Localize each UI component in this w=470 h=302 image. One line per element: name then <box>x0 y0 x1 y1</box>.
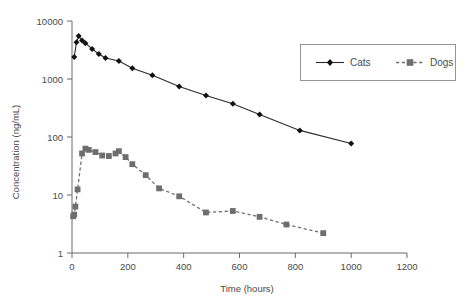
data-point-cats <box>257 111 263 117</box>
x-axis-ticks: 020040060080010001200 <box>69 253 417 272</box>
data-point-dogs <box>123 154 129 160</box>
x-tick-label: 1200 <box>396 261 417 272</box>
data-point-dogs <box>72 204 78 210</box>
legend-cats-label: Cats <box>350 57 371 68</box>
data-point-dogs <box>143 172 149 178</box>
data-point-dogs <box>129 161 135 167</box>
data-point-cats <box>73 39 79 45</box>
y-tick-label: 1 <box>58 248 63 259</box>
series-dogs <box>70 146 326 236</box>
data-point-cats <box>230 101 236 107</box>
data-point-dogs <box>116 148 122 154</box>
data-point-cats <box>297 127 303 133</box>
data-point-dogs <box>106 153 112 159</box>
data-point-cats <box>149 72 155 78</box>
y-axis-title: Concentration (ng/mL) <box>10 105 21 200</box>
data-point-cats <box>348 141 354 147</box>
data-point-dogs <box>284 222 290 228</box>
data-point-dogs <box>257 214 263 220</box>
data-point-dogs <box>156 185 162 191</box>
data-point-dogs <box>203 210 209 216</box>
pk-concentration-time-chart: 110100100010000 020040060080010001200 Co… <box>0 0 470 302</box>
y-tick-label: 1000 <box>42 74 63 85</box>
data-point-cats <box>116 58 122 64</box>
y-axis-ticks: 110100100010000 <box>37 16 72 259</box>
chart-container: 110100100010000 020040060080010001200 Co… <box>0 0 470 302</box>
data-point-dogs <box>86 147 92 153</box>
data-point-dogs <box>176 193 182 199</box>
y-tick-label: 10000 <box>37 16 63 27</box>
x-axis-title: Time (hours) <box>220 283 274 294</box>
data-point-dogs <box>71 212 77 218</box>
series-line-dogs <box>73 149 323 234</box>
legend-dogs-label: Dogs <box>430 57 453 68</box>
data-point-cats <box>103 55 109 61</box>
chart-legend: Cats Dogs <box>301 45 456 81</box>
data-point-cats <box>203 92 209 98</box>
data-point-cats <box>176 83 182 89</box>
y-tick-label: 100 <box>47 132 63 143</box>
y-tick-label: 10 <box>52 190 63 201</box>
x-tick-label: 800 <box>287 261 303 272</box>
x-tick-label: 1000 <box>341 261 362 272</box>
data-point-cats <box>129 65 135 71</box>
x-tick-label: 0 <box>69 261 74 272</box>
data-point-dogs <box>75 186 81 192</box>
data-point-dogs <box>93 149 99 155</box>
data-point-dogs <box>99 153 105 159</box>
data-point-dogs <box>230 208 236 214</box>
x-tick-label: 600 <box>232 261 248 272</box>
x-tick-label: 200 <box>120 261 136 272</box>
data-point-dogs <box>320 230 326 236</box>
x-tick-label: 400 <box>176 261 192 272</box>
legend-dogs-square-icon <box>407 59 414 66</box>
